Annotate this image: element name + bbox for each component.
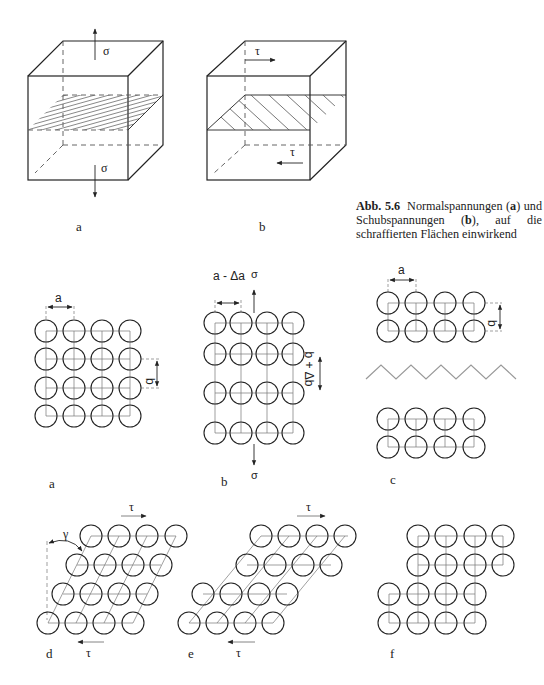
gamma-label: γ [62,527,69,541]
tau-bottom-e: τ [236,646,241,660]
caption-b: b [465,213,472,227]
panel-label-f: f [390,646,395,661]
dim-b-plus-delta-label: b + Δb [302,351,316,386]
tau-top-d: τ [129,500,134,514]
panel-label-top-a: a [76,219,82,234]
lattice-d [37,516,187,642]
cube-a [20,29,170,197]
dim-a-label-c: a [398,263,405,277]
panel-label-mid-c: c [390,472,396,487]
dim-a-label: a [55,291,62,305]
dim-a-minus-delta-label: a - Δa [213,269,245,283]
tau-bottom-b: τ [290,145,295,159]
lattice-f [378,525,514,634]
lattice-a [35,306,160,427]
sigma-bottom-a: σ [101,161,108,175]
lattice-e [178,516,356,642]
tau-top-b: τ [255,44,260,58]
caption-label: Abb. 5.6 [356,199,400,213]
sigma-top-mid-b: σ [251,268,258,280]
cube-b [186,41,390,180]
figure-canvas: σ σ a τ τ b [0,0,544,685]
panel-label-top-b: b [259,219,266,234]
sigma-bottom-mid-b: σ [251,469,258,481]
dim-b-label-c: b [485,320,499,327]
figure-caption: Abb. 5.6 Normalspannungen (a) und Schubs… [356,199,542,241]
sigma-top-a: σ [103,44,110,58]
lattice-c [366,279,516,458]
tau-top-e: τ [306,500,311,514]
panel-label-mid-b: b [221,474,228,489]
dim-b-label: b [143,378,157,385]
panel-label-e: e [188,646,194,661]
fracture-zigzag [366,365,516,379]
panel-label-d: d [46,646,53,661]
caption-text-1: Normalspannungen ( [407,199,510,213]
tau-bottom-d: τ [86,646,91,660]
panel-label-mid-a: a [49,476,55,491]
